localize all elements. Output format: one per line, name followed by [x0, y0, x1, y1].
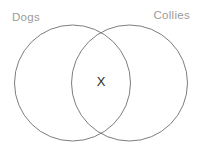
set-label-collies: Collies — [153, 9, 190, 21]
venn-diagram-canvas: Dogs Collies X — [0, 0, 202, 154]
intersection-x-mark[interactable]: X — [97, 74, 106, 89]
venn-diagram-svg: Dogs Collies X — [0, 0, 202, 154]
set-label-dogs: Dogs — [12, 11, 40, 23]
